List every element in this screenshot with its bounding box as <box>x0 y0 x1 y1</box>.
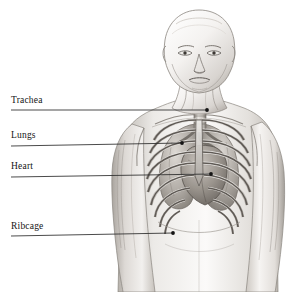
anatomy-figure-canvas: Trachea Lungs Heart Ribcage <box>0 0 298 292</box>
leader-line-lungs <box>11 143 182 146</box>
leader-dot-heart <box>209 172 213 176</box>
leader-line-heart <box>11 174 211 177</box>
leader-line-ribcage <box>11 233 173 236</box>
leader-lines <box>0 0 298 292</box>
label-ribcage: Ribcage <box>11 222 44 232</box>
leader-dot-ribcage <box>171 231 175 235</box>
label-trachea: Trachea <box>11 96 43 106</box>
label-heart: Heart <box>11 162 33 172</box>
annotation-layer: Trachea Lungs Heart Ribcage <box>0 0 298 292</box>
leader-dot-lungs <box>180 141 184 145</box>
label-lungs: Lungs <box>11 131 36 141</box>
leader-dot-trachea <box>205 108 209 112</box>
